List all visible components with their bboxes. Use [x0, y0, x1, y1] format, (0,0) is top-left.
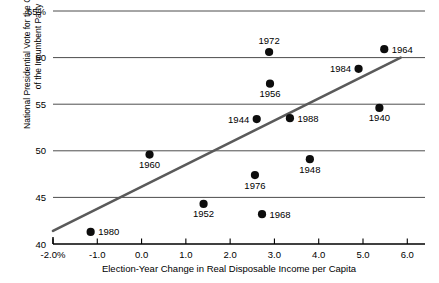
regression-line	[53, 58, 401, 231]
x-tick-label: 0.0	[135, 249, 148, 260]
axis-lines	[53, 237, 425, 244]
x-axis-ticks	[53, 239, 407, 245]
data-point	[87, 228, 95, 236]
y-tick-label: 45	[35, 192, 46, 203]
x-axis-tick-labels: -2.0%-1.00.01.02.03.04.05.06.0	[41, 249, 414, 260]
scatter-chart: National Presidential Vote for the Candi…	[0, 0, 439, 283]
x-tick-label: 4.0	[312, 249, 325, 260]
data-point-label: 1988	[297, 113, 318, 124]
x-axis-title: Election-Year Change in Real Disposable …	[49, 263, 409, 274]
data-point-label: 1952	[193, 208, 214, 219]
data-point-label: 1944	[228, 114, 249, 125]
data-point-label: 1976	[244, 180, 265, 191]
x-tick-label: -1.0	[89, 249, 105, 260]
data-point	[375, 104, 383, 112]
data-point	[253, 115, 261, 123]
data-point	[306, 155, 314, 163]
data-point	[145, 150, 153, 158]
data-point	[266, 80, 274, 88]
data-point-label: 1984	[330, 63, 351, 74]
data-point-label: 1972	[259, 35, 280, 46]
regression-line-segment	[53, 58, 401, 231]
data-point-label: 1980	[98, 226, 119, 237]
data-point-label: 1948	[299, 164, 320, 175]
data-point-labels: 1980196019521968197619441988194819561972…	[98, 35, 413, 238]
data-point-label: 1960	[139, 159, 160, 170]
x-tick-label: 3.0	[268, 249, 281, 260]
data-point-label: 1968	[270, 209, 291, 220]
x-tick-label: 6.0	[401, 249, 414, 260]
y-tick-label: 65%	[27, 6, 47, 17]
y-tick-label: 55	[35, 99, 46, 110]
y-tick-label: 60	[35, 52, 46, 63]
data-point	[251, 171, 259, 179]
data-point	[258, 210, 266, 218]
data-point-label: 1956	[259, 88, 280, 99]
data-point	[265, 48, 273, 56]
y-tick-label: 40	[35, 239, 46, 250]
data-point	[286, 114, 294, 122]
x-tick-label: 5.0	[356, 249, 369, 260]
y-axis-tick-labels: 404550556065%	[27, 6, 47, 250]
data-point	[354, 65, 362, 73]
data-point	[380, 45, 388, 53]
y-tick-label: 50	[35, 145, 46, 156]
gridlines	[53, 11, 425, 197]
data-point	[199, 200, 207, 208]
data-point-label: 1964	[392, 44, 413, 55]
x-tick-label: -2.0%	[41, 249, 66, 260]
plot-area: 404550556065% -2.0%-1.00.01.02.03.04.05.…	[0, 0, 439, 283]
x-tick-label: 2.0	[224, 249, 237, 260]
x-tick-label: 1.0	[179, 249, 192, 260]
data-point-label: 1940	[369, 112, 390, 123]
